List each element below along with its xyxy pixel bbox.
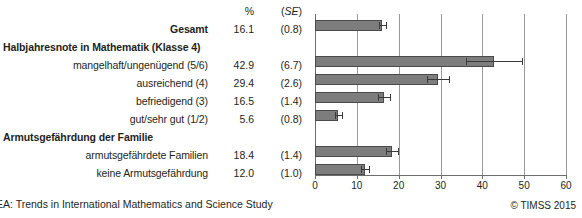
row-percent: 18.4 (214, 149, 262, 161)
row-label: Armutsgefährdung der Familie (0, 131, 214, 143)
x-tick-10 (357, 175, 358, 179)
x-tick-label-60: 60 (560, 180, 571, 191)
row-percent: 12.0 (214, 167, 262, 179)
error-bar-cap-lower (466, 58, 467, 65)
bar (315, 92, 384, 103)
error-bar-cap-lower (361, 166, 362, 173)
figure-root: % (SE) Gesamt16.1(0.8)Halbjahresnote in … (0, 0, 582, 218)
error-bar-cap-upper (522, 58, 523, 65)
row-label: gut/sehr gut (1/2) (0, 113, 214, 125)
gridline-60 (566, 14, 567, 175)
table-header-row: % (SE) (0, 2, 308, 20)
x-tick-40 (482, 175, 483, 179)
error-bar-cap-upper (386, 22, 387, 29)
header-se: (SE) (262, 5, 308, 17)
row-standard-error: (0.8) (262, 23, 308, 35)
row-percent: 16.1 (214, 23, 262, 35)
error-bar-cap-upper (342, 112, 343, 119)
table-row: gut/sehr gut (1/2)5.6(0.8) (0, 110, 308, 128)
x-tick-60 (566, 175, 567, 179)
table-row: ausreichend (4)29.4(2.6) (0, 74, 308, 92)
row-label: befriedigend (3) (0, 95, 214, 107)
error-bar (427, 79, 449, 80)
table-group-heading-row: Armutsgefährdung der Familie (0, 128, 308, 146)
x-tick-label-0: 0 (312, 180, 318, 191)
error-bar (386, 151, 398, 152)
gridline-30 (441, 14, 442, 175)
row-standard-error: (2.6) (262, 77, 308, 89)
row-label: keine Armutsgefährdung (0, 167, 214, 179)
bar-chart: 0102030405060 (308, 0, 582, 190)
row-standard-error: (0.8) (262, 113, 308, 125)
x-tick-label-10: 10 (351, 180, 362, 191)
bar (315, 20, 382, 31)
data-table: % (SE) Gesamt16.1(0.8)Halbjahresnote in … (0, 0, 308, 186)
error-bar (361, 169, 369, 170)
x-tick-label-30: 30 (435, 180, 446, 191)
x-tick-0 (315, 175, 316, 179)
bar (315, 146, 392, 157)
error-bar (378, 97, 390, 98)
error-bar (335, 115, 342, 116)
row-label: ausreichend (4) (0, 77, 214, 89)
error-bar-cap-upper (398, 148, 399, 155)
x-tick-50 (524, 175, 525, 179)
x-tick-20 (399, 175, 400, 179)
row-percent: 29.4 (214, 77, 262, 89)
gridline-50 (524, 14, 525, 175)
header-percent: % (214, 5, 262, 17)
x-tick-label-50: 50 (519, 180, 530, 191)
error-bar-cap-lower (378, 94, 379, 101)
x-tick-label-40: 40 (477, 180, 488, 191)
error-bar-cap-upper (369, 166, 370, 173)
x-tick-30 (441, 175, 442, 179)
error-bar-cap-lower (427, 76, 428, 83)
gridline-40 (482, 14, 483, 175)
row-standard-error: (1.0) (262, 167, 308, 179)
row-standard-error: (1.4) (262, 95, 308, 107)
row-percent: 5.6 (214, 113, 262, 125)
row-label: Halbjahresnote in Mathematik (Klasse 4) (0, 41, 214, 53)
error-bar-cap-lower (379, 22, 380, 29)
x-tick-label-20: 20 (393, 180, 404, 191)
source-note: EA: Trends in International Mathematics … (0, 198, 273, 210)
row-label: mangelhaft/ungenügend (5/6) (0, 59, 214, 71)
row-label: Gesamt (0, 23, 214, 35)
table-row: armutsgefährdete Familien18.4(1.4) (0, 146, 308, 164)
error-bar-cap-upper (449, 76, 450, 83)
error-bar-cap-upper (390, 94, 391, 101)
table-group-heading-row: Halbjahresnote in Mathematik (Klasse 4) (0, 38, 308, 56)
error-bar-cap-lower (335, 112, 336, 119)
row-standard-error: (6.7) (262, 59, 308, 71)
copyright-note: © TIMSS 2015 (510, 200, 576, 212)
error-bar (466, 61, 522, 62)
table-row: mangelhaft/ungenügend (5/6)42.9(6.7) (0, 56, 308, 74)
row-percent: 42.9 (214, 59, 262, 71)
error-bar-cap-lower (386, 148, 387, 155)
table-row: keine Armutsgefährdung12.0(1.0) (0, 164, 308, 182)
table-row: Gesamt16.1(0.8) (0, 20, 308, 38)
table-row: befriedigend (3)16.5(1.4) (0, 92, 308, 110)
bar (315, 164, 365, 175)
plot-area (315, 14, 566, 175)
row-standard-error: (1.4) (262, 149, 308, 161)
bar (315, 74, 438, 85)
row-percent: 16.5 (214, 95, 262, 107)
row-label: armutsgefährdete Familien (0, 149, 214, 161)
error-bar (379, 25, 386, 26)
